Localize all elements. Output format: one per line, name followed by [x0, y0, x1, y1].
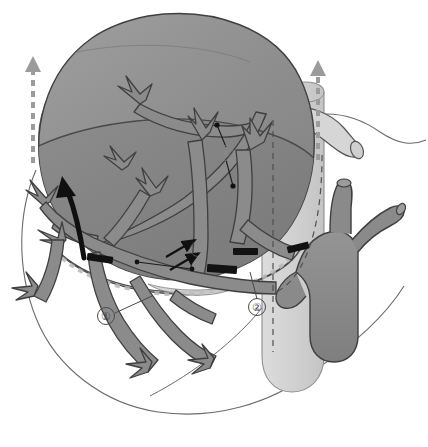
dot-upper	[214, 122, 219, 127]
anatomical-figure: ① ② ③ ④	[0, 0, 428, 447]
callout-1-label: ①	[101, 310, 111, 322]
clip-right-inner	[233, 248, 258, 255]
dot-lower	[230, 183, 235, 188]
portal-branch-upper	[330, 181, 352, 234]
figure-canvas: ① ② ③ ④	[0, 0, 428, 447]
portal-branch-lateral	[352, 206, 404, 252]
callout-2-label: ②	[252, 301, 262, 313]
callout-4-label: ④	[221, 147, 231, 159]
callout-3-label: ③	[193, 243, 203, 255]
